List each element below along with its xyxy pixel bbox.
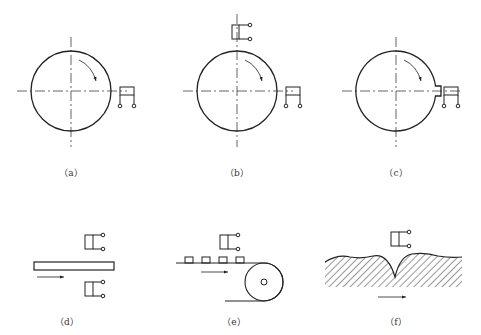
rotation-arrow-icon [245,60,262,81]
conveyor-roller [245,263,283,301]
sensor-right [284,87,302,108]
sensor [391,230,411,248]
rough-surface [325,253,462,287]
sensor-top [85,233,105,251]
panel-c-label: （c） [384,166,407,179]
sensor [118,87,136,108]
panel-b-label: （b） [225,166,249,179]
conveyor-parts [185,257,244,263]
panel-d [34,233,114,298]
sensor [442,87,460,108]
panel-c [342,37,462,147]
panel-f [325,230,462,297]
rotation-arrow-icon [79,60,96,81]
roller-axle [261,279,267,285]
sensor [220,233,240,251]
panel-e [176,233,283,301]
panel-d-label: （d） [55,315,79,328]
sensor-top [232,23,252,41]
sensor-bottom [85,280,105,298]
panel-f-label: （f） [385,315,406,328]
moving-strip [34,262,114,270]
panel-b [183,14,302,147]
panel-a [17,37,136,147]
rotation-arrow-icon [404,60,421,81]
panel-e-label: （e） [222,315,245,328]
panel-a-label: （a） [59,166,82,179]
